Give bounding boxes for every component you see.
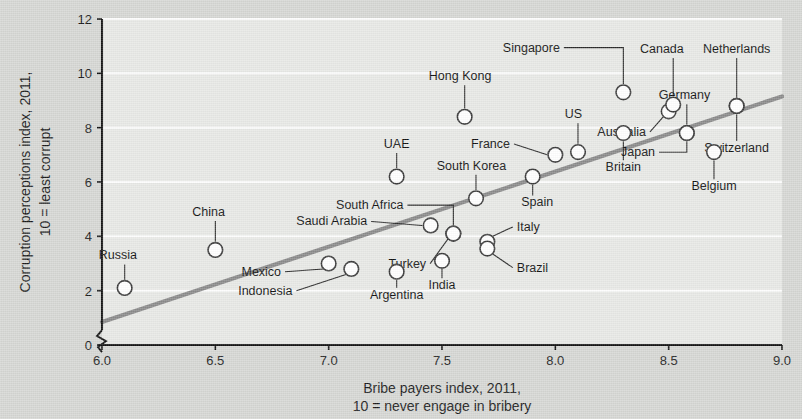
point-label-italy: Italy: [517, 220, 541, 234]
point-label-japan: Japan: [621, 145, 655, 159]
data-point-uae[interactable]: UAE (7.3, 6.2): [389, 169, 404, 184]
data-point-spain[interactable]: Spain (7.9, 6.2): [525, 169, 540, 184]
data-point-saudi-arabia[interactable]: Saudi Arabia (7.45, 4.4): [423, 218, 438, 233]
point-label-argentina: Argentina: [370, 288, 424, 302]
y-axis-title: Corruption perceptions index, 2011,: [17, 72, 33, 293]
point-label-saudi-arabia: Saudi Arabia: [296, 214, 367, 228]
data-point-india[interactable]: India (7.5, 3.1): [435, 253, 450, 268]
point-label-uae: UAE: [384, 137, 410, 151]
point-label-france: France: [471, 137, 510, 151]
point-label-india: India: [428, 278, 455, 292]
data-point-hong-kong[interactable]: Hong Kong (7.6, 8.4): [457, 110, 472, 125]
x-tick-label: 8.5: [660, 353, 678, 368]
point-label-us: US: [565, 107, 582, 121]
y-tick-label: 4: [85, 229, 92, 244]
y-tick-label: 10: [78, 66, 92, 81]
point-label-hong-kong: Hong Kong: [429, 69, 492, 83]
data-point-belgium[interactable]: Belgium (8.7, 7.1): [707, 145, 722, 160]
x-tick-label: 7.5: [433, 353, 451, 368]
data-point-mexico[interactable]: Mexico (7, 3): [321, 256, 336, 271]
data-point-turkey[interactable]: Turkey (7.55, 4.1): [446, 226, 461, 241]
data-point-russia[interactable]: Russia (6.1, 2.1): [117, 281, 132, 296]
y-tick-label: 12: [78, 12, 92, 27]
data-point-south-korea[interactable]: South Korea (7.65, 5.4): [469, 191, 484, 206]
data-point-japan[interactable]: Japan (8.58, 7.8): [680, 126, 695, 141]
data-point-switzerland[interactable]: Switzerland (8.8, 8.8): [729, 99, 744, 114]
point-label-netherlands: Netherlands: [703, 42, 770, 56]
point-label-brazil: Brazil: [517, 261, 548, 275]
y-tick-label: 0: [85, 338, 92, 353]
y-tick-label: 8: [85, 121, 92, 136]
x-axis-title: Bribe payers index, 2011,: [363, 380, 521, 396]
x-tick-label: 6.0: [93, 353, 111, 368]
chart-svg: 0246810126.06.57.07.58.08.59.0Bribe paye…: [0, 0, 802, 419]
data-point-britain[interactable]: Britain (8.3, 7.8): [616, 126, 631, 141]
data-point-us[interactable]: US (8.1, 7.1): [571, 145, 586, 160]
scatter-chart: 0246810126.06.57.07.58.08.59.0Bribe paye…: [0, 0, 802, 419]
point-label-mexico: Mexico: [241, 265, 281, 279]
x-tick-label: 7.0: [320, 353, 338, 368]
data-point-indonesia[interactable]: Indonesia (7.1, 2.8): [344, 262, 359, 277]
y-tick-label: 2: [85, 284, 92, 299]
x-tick-label: 6.5: [206, 353, 224, 368]
point-label-singapore: Singapore: [503, 41, 560, 55]
point-label-south-korea: South Korea: [437, 159, 507, 173]
data-point-singapore[interactable]: Singapore (8.3, 9.3): [616, 85, 631, 100]
x-axis-title-line2: 10 = never engage in bribery: [353, 398, 532, 414]
data-point-argentina[interactable]: Argentina (7.3, 2.7): [389, 264, 404, 279]
data-point-canada[interactable]: Canada (8.52, 8.85): [666, 97, 681, 112]
point-label-britain: Britain: [606, 160, 641, 174]
x-tick-label: 9.0: [773, 353, 791, 368]
point-label-canada: Canada: [640, 42, 684, 56]
y-axis-title-line2: 10 = least corrupt: [37, 128, 53, 237]
point-label-russia: Russia: [99, 248, 137, 262]
data-point-china[interactable]: China (6.5, 3.5): [208, 243, 223, 258]
x-tick-label: 8.0: [546, 353, 564, 368]
point-label-spain: Spain: [521, 195, 553, 209]
y-tick-label: 6: [85, 175, 92, 190]
point-label-belgium: Belgium: [691, 179, 736, 193]
point-label-south-africa: South Africa: [336, 198, 403, 212]
point-label-indonesia: Indonesia: [238, 284, 292, 298]
point-label-china: China: [192, 205, 225, 219]
data-point-france[interactable]: France (8, 7): [548, 148, 563, 163]
data-point-brazil[interactable]: Brazil (7.7, 3.55): [480, 241, 495, 256]
